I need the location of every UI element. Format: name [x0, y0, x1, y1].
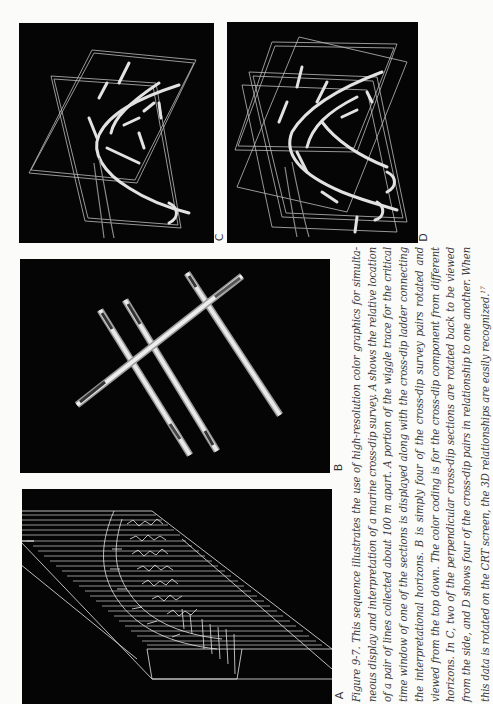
panel-label-a: A	[334, 692, 345, 700]
caption-line: this data is rotated on the CRT screen, …	[480, 294, 491, 702]
caption-line: neous display and interpretation of a ma…	[365, 247, 381, 702]
caption-line: Figure 9-7. This sequence illustrates th…	[349, 247, 365, 702]
figure-panel-b	[20, 259, 330, 473]
wireframe-slab-graphic	[22, 489, 332, 704]
caption-line: from the side, and D shows four of the c…	[459, 247, 475, 702]
figure-panel-c	[19, 23, 214, 243]
cross-dip-side-view-graphic	[19, 23, 214, 243]
caption-line: time window of one of the sections is di…	[396, 247, 412, 702]
caption-line: of a pair of lines collected about 100 m…	[380, 247, 396, 702]
caption-line: the interpretational horizons. B is simp…	[412, 247, 428, 702]
figure-panel-d	[227, 22, 418, 243]
survey-pairs-top-view-graphic	[20, 259, 330, 473]
footnote-reference: 17	[479, 286, 486, 293]
panel-label-c: C	[214, 234, 225, 242]
figure-caption-text: Figure 9-7. This sequence illustrates th…	[349, 247, 479, 702]
caption-line: viewed from the top down. The color codi…	[428, 247, 444, 702]
panel-label-d: D	[418, 233, 429, 241]
cross-dip-pairs-graphic	[227, 22, 418, 243]
panel-label-b: B	[333, 464, 344, 472]
caption-line-last: this data is rotated on the CRT screen, …	[475, 247, 493, 702]
figure-panel-a	[22, 489, 332, 704]
caption-line: horizons. In C, two of the perpendicular…	[443, 247, 459, 702]
figure-caption: Figure 9-7. This sequence illustrates th…	[349, 247, 479, 702]
